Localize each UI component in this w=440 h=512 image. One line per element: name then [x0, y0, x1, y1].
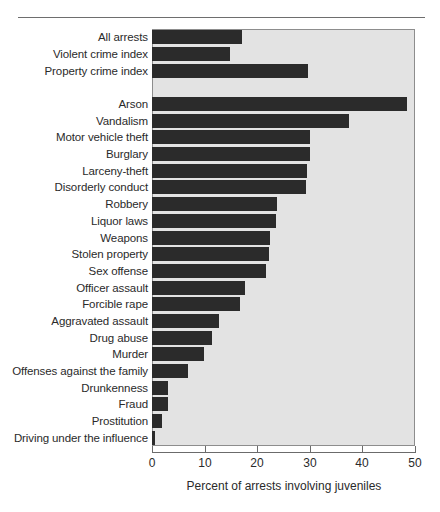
category-label: Liquor laws — [2, 214, 148, 228]
axis-tick — [415, 446, 416, 453]
bar — [152, 231, 270, 245]
category-label: Drug abuse — [2, 331, 148, 345]
figure: All arrestsViolent crime indexProperty c… — [0, 0, 440, 512]
axis-tick — [152, 446, 153, 453]
category-label: All arrests — [2, 30, 148, 44]
axis-tick — [205, 446, 206, 453]
bar — [152, 347, 204, 361]
bar-row — [152, 30, 415, 44]
bar-row — [152, 431, 415, 445]
top-rule-divider — [18, 17, 425, 18]
category-label: Vandalism — [2, 114, 148, 128]
bar-row — [152, 130, 415, 144]
bar — [152, 397, 168, 411]
category-label: Violent crime index — [2, 47, 148, 61]
bar — [152, 130, 310, 144]
category-label: Burglary — [2, 147, 148, 161]
category-label: Aggravated assault — [2, 314, 148, 328]
bar — [152, 147, 310, 161]
bar-row — [152, 214, 415, 228]
category-label: Prostitution — [2, 414, 148, 428]
bar — [152, 331, 212, 345]
category-axis-labels: All arrestsViolent crime indexProperty c… — [0, 29, 148, 446]
bar-row — [152, 297, 415, 311]
axis-tick — [310, 446, 311, 453]
bar-row — [152, 264, 415, 278]
bar — [152, 30, 242, 44]
bar — [152, 180, 306, 194]
category-label: Sex offense — [2, 264, 148, 278]
bar — [152, 297, 240, 311]
bar-row — [152, 414, 415, 428]
category-label: Officer assault — [2, 281, 148, 295]
bar-row — [152, 180, 415, 194]
axis-tick-label: 30 — [303, 456, 316, 470]
bar — [152, 47, 230, 61]
bar-row — [152, 114, 415, 128]
axis-tick-label: 40 — [355, 456, 368, 470]
axis-tick — [362, 446, 363, 453]
category-label: Disorderly conduct — [2, 180, 148, 194]
axis-tick-label: 10 — [198, 456, 211, 470]
bar-row — [152, 331, 415, 345]
bar-row — [152, 364, 415, 378]
category-label: Forcible rape — [2, 297, 148, 311]
bar-row — [152, 347, 415, 361]
category-label: Murder — [2, 347, 148, 361]
bar — [152, 64, 308, 78]
bar — [152, 381, 168, 395]
value-axis-line — [152, 452, 416, 453]
bar — [152, 97, 407, 111]
bar — [152, 247, 269, 261]
axis-tick-label: 20 — [250, 456, 263, 470]
bar-row — [152, 247, 415, 261]
axis-tick — [257, 446, 258, 453]
category-label: Stolen property — [2, 247, 148, 261]
bar-row — [152, 147, 415, 161]
category-label: Motor vehicle theft — [2, 130, 148, 144]
category-label: Drunkenness — [2, 381, 148, 395]
category-label: Driving under the influence — [2, 431, 148, 445]
category-label: Robbery — [2, 197, 148, 211]
category-label: Property crime index — [2, 64, 148, 78]
bar-row — [152, 97, 415, 111]
axis-tick-label: 50 — [408, 456, 421, 470]
axis-tick-label: 0 — [149, 456, 156, 470]
bar — [152, 364, 188, 378]
bar-row — [152, 164, 415, 178]
bar — [152, 114, 349, 128]
bar-row — [152, 314, 415, 328]
bar — [152, 164, 307, 178]
category-label: Larceny-theft — [2, 164, 148, 178]
category-label: Weapons — [2, 231, 148, 245]
bar-row — [152, 231, 415, 245]
bar-row — [152, 381, 415, 395]
bar — [152, 264, 266, 278]
bar-row — [152, 397, 415, 411]
value-axis-title: Percent of arrests involving juveniles — [152, 479, 416, 493]
category-label: Arson — [2, 97, 148, 111]
bar-row — [152, 47, 415, 61]
bar-row — [152, 64, 415, 78]
bar — [152, 314, 219, 328]
category-label: Fraud — [2, 397, 148, 411]
category-label: Offenses against the family — [2, 364, 148, 378]
bar — [152, 197, 277, 211]
bar — [152, 414, 162, 428]
bar — [152, 214, 276, 228]
bar-row — [152, 281, 415, 295]
bar-row — [152, 197, 415, 211]
bar — [152, 431, 155, 445]
bar — [152, 281, 245, 295]
